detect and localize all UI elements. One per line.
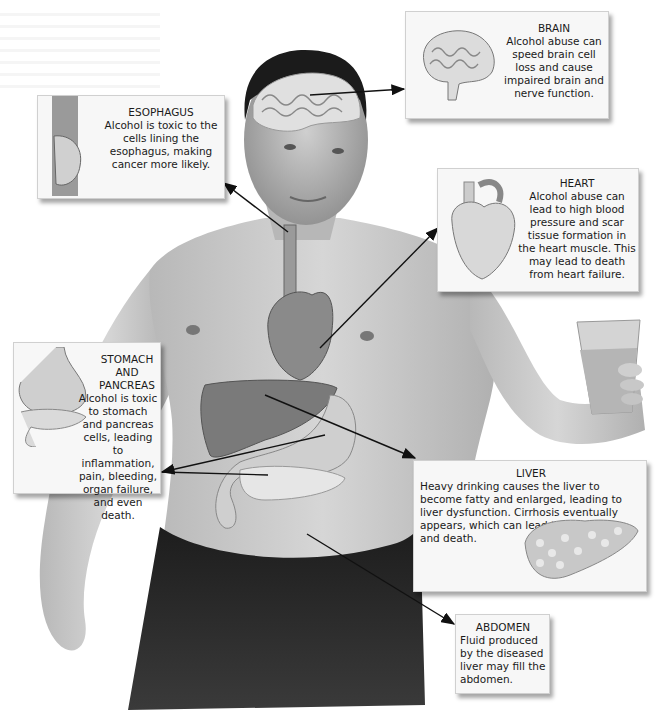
callout-title: STOMACH AND PANCREAS bbox=[18, 353, 158, 392]
callout-title: LIVER bbox=[420, 467, 642, 480]
cirrhotic-liver-icon bbox=[520, 513, 640, 583]
callout-stomach-pancreas: STOMACH AND PANCREAS Alcohol is toxic to… bbox=[13, 342, 161, 494]
head bbox=[244, 50, 368, 240]
callout-heart: HEART Alcohol abuse can lead to high blo… bbox=[437, 168, 639, 292]
callout-title: ABDOMEN bbox=[460, 621, 546, 634]
heart-icon bbox=[444, 177, 524, 282]
brain-icon bbox=[414, 22, 500, 102]
callout-abdomen: ABDOMEN Fluid produced by the diseased l… bbox=[455, 614, 550, 694]
callout-title: ESOPHAGUS bbox=[100, 106, 222, 119]
callout-title: BRAIN bbox=[502, 22, 606, 35]
callout-text: Alcohol abuse can lead to high blood pre… bbox=[518, 190, 636, 280]
callout-text: Alcohol is toxic to the cells lining the… bbox=[105, 119, 218, 170]
callout-brain: BRAIN Alcohol abuse can speed brain cell… bbox=[405, 11, 609, 119]
callout-liver: LIVER Heavy drinking causes the liver to… bbox=[413, 460, 647, 592]
callout-esophagus: ESOPHAGUS Alcohol is toxic to the cells … bbox=[37, 95, 225, 199]
esophagus-icon bbox=[40, 96, 90, 196]
glass-of-alcohol-icon bbox=[577, 320, 644, 414]
callout-text: Fluid produced by the diseased liver may… bbox=[460, 634, 545, 685]
callout-text: Alcohol abuse can speed brain cell loss … bbox=[504, 35, 604, 99]
callout-title: HEART bbox=[518, 177, 636, 190]
callout-text: Alcohol is toxic to stomach and pancreas… bbox=[18, 392, 158, 522]
